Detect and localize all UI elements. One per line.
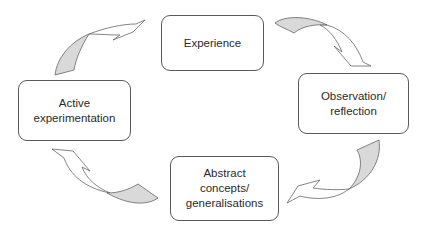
learning-cycle-diagram: Experience Observation/ reflection Abstr… — [0, 0, 423, 232]
node-experience: Experience — [161, 15, 264, 71]
node-label: Active experimentation — [34, 96, 116, 126]
node-active-experimentation: Active experimentation — [18, 80, 131, 141]
arrow-observation-to-abstract — [287, 140, 379, 203]
node-observation-reflection: Observation/ reflection — [298, 73, 409, 134]
node-label: Experience — [184, 36, 242, 51]
arrow-abstract-to-active — [52, 149, 158, 203]
node-abstract-concepts: Abstract concepts/ generalisations — [170, 156, 279, 221]
arrow-experience-to-observation — [275, 18, 371, 66]
node-label: Observation/ reflection — [321, 89, 386, 119]
node-label: Abstract concepts/ generalisations — [186, 166, 263, 211]
arrow-active-to-experience — [55, 20, 145, 75]
